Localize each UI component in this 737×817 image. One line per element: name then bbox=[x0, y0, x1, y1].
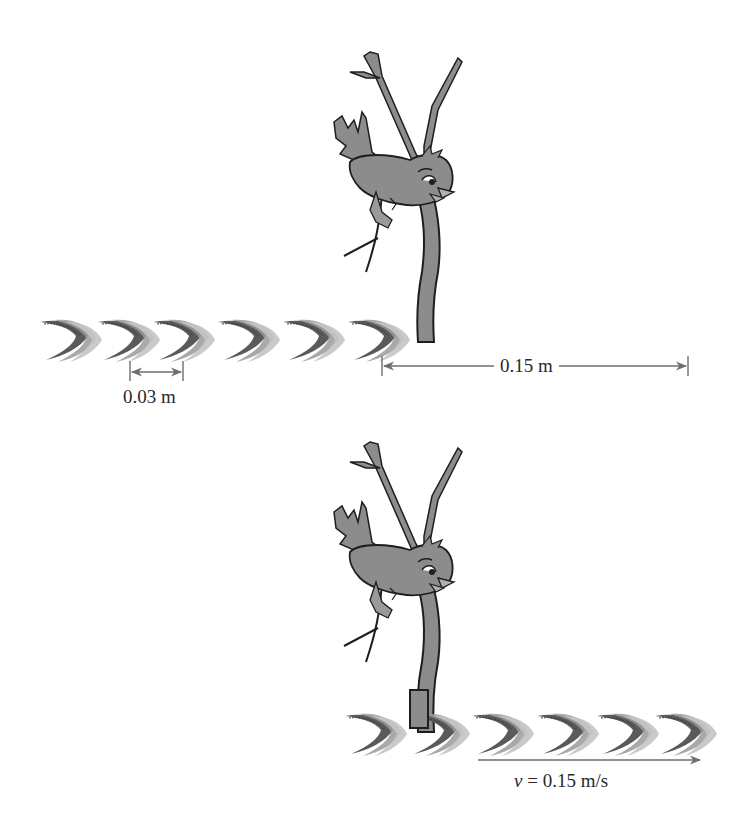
velocity-symbol: v bbox=[514, 770, 522, 791]
wave-crest bbox=[597, 714, 659, 756]
wavelength-label: 0.03 m bbox=[123, 387, 176, 406]
wave-crest bbox=[98, 320, 160, 362]
top-panel bbox=[40, 52, 688, 381]
wave-crest bbox=[153, 320, 215, 362]
wave-crest bbox=[348, 320, 410, 362]
wave-crest bbox=[40, 320, 102, 362]
bottom-panel bbox=[334, 442, 717, 760]
wave-crest bbox=[283, 320, 345, 362]
wave-crest bbox=[345, 714, 407, 756]
distance-label: 0.15 m bbox=[494, 356, 559, 375]
wave-crest bbox=[218, 320, 280, 362]
wave-crest bbox=[472, 714, 534, 756]
wave-crest bbox=[655, 714, 717, 756]
velocity-label: v = 0.15 m/s bbox=[514, 771, 608, 790]
velocity-value: = 0.15 m/s bbox=[527, 770, 608, 791]
wavelength-dimension bbox=[130, 361, 183, 381]
wave-crests-top bbox=[40, 320, 410, 362]
wave-crest bbox=[537, 714, 599, 756]
bird-on-branch-top bbox=[334, 52, 462, 342]
trunk-overlap bbox=[410, 690, 428, 728]
bird-on-branch-bottom bbox=[334, 442, 462, 732]
wave-diagram bbox=[0, 0, 737, 817]
wave-crests-bottom bbox=[345, 714, 717, 756]
